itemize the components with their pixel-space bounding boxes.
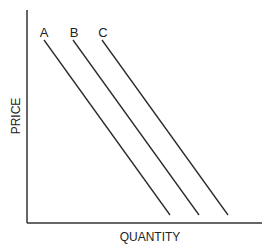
curve-b [73,40,199,215]
curve-label-c: C [98,25,107,40]
curve-label-b: B [70,25,79,40]
y-axis-label: PRICE [9,98,23,135]
curve-c [102,40,228,215]
x-axis-label: QUANTITY [120,230,181,244]
diagram-canvas: A B C QUANTITY PRICE [0,0,272,252]
curve-label-a: A [40,25,49,40]
curve-a [44,40,170,215]
